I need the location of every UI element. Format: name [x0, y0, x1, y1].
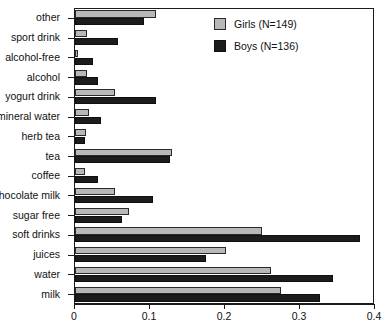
- legend-label: Girls (N=149): [234, 18, 297, 30]
- bar-girls: [75, 30, 87, 37]
- legend-swatch-boys: [214, 40, 226, 52]
- bar-boys: [75, 58, 93, 65]
- x-axis-tick-label: 0: [71, 310, 77, 322]
- bar-boys: [75, 97, 156, 104]
- category-tick: [68, 18, 74, 19]
- bar-boys: [75, 38, 118, 45]
- legend-swatch-girls: [214, 18, 226, 30]
- category-tick: [68, 255, 74, 256]
- bar-boys: [75, 77, 98, 84]
- bar-girls: [75, 208, 129, 215]
- category-tick: [68, 156, 74, 157]
- category-label: coffee: [32, 170, 60, 181]
- x-axis-tick: [299, 304, 300, 309]
- legend-item: Girls (N=149): [214, 16, 297, 32]
- category-label: yogurt drink: [5, 91, 60, 102]
- category-label: mineral water: [0, 111, 60, 122]
- bar-boys: [75, 176, 98, 183]
- x-axis-tick-label: 0.4: [367, 310, 382, 322]
- category-tick: [68, 57, 74, 58]
- category-tick: [68, 38, 74, 39]
- category-tick: [68, 97, 74, 98]
- category-tick: [68, 235, 74, 236]
- category-tick: [68, 274, 74, 275]
- category-label: sugar free: [13, 210, 60, 221]
- category-label: juices: [33, 249, 60, 260]
- bar-girls: [75, 168, 85, 175]
- category-label: water: [34, 269, 60, 280]
- bar-girls: [75, 247, 226, 254]
- bar-chart: othersport drinkalcohol-freealcoholyogur…: [0, 0, 387, 334]
- x-axis-tick-label: 0.3: [292, 310, 307, 322]
- bar-girls: [75, 109, 89, 116]
- category-tick: [68, 117, 74, 118]
- bar-boys: [75, 137, 85, 144]
- legend-item: Boys (N=136): [214, 38, 299, 54]
- bar-boys: [75, 196, 153, 203]
- x-axis-tick: [149, 304, 150, 309]
- bar-boys: [75, 255, 206, 262]
- category-tick: [68, 176, 74, 177]
- category-label: chocolate milk: [0, 190, 60, 201]
- legend-label: Boys (N=136): [234, 40, 299, 52]
- category-label: herb tea: [21, 131, 60, 142]
- bar-girls: [75, 129, 86, 136]
- bar-boys: [75, 18, 144, 25]
- bar-boys: [75, 235, 360, 242]
- category-label: alcohol-free: [5, 52, 60, 63]
- bar-girls: [75, 287, 281, 294]
- category-tick: [68, 77, 74, 78]
- chart-legend: Girls (N=149)Boys (N=136): [214, 16, 344, 60]
- category-tick: [68, 294, 74, 295]
- category-label: other: [36, 12, 60, 23]
- x-axis-tick: [74, 304, 75, 309]
- category-tick: [68, 195, 74, 196]
- bar-boys: [75, 117, 101, 124]
- category-tick: [68, 215, 74, 216]
- bar-girls: [75, 227, 262, 234]
- bar-girls: [75, 10, 156, 17]
- bar-girls: [75, 188, 115, 195]
- category-label: soft drinks: [12, 229, 60, 240]
- category-label: milk: [41, 289, 60, 300]
- bar-boys: [75, 275, 333, 282]
- bar-girls: [75, 149, 172, 156]
- x-axis-tick-label: 0.2: [217, 310, 232, 322]
- bar-girls: [75, 50, 78, 57]
- category-label: tea: [45, 151, 60, 162]
- bar-girls: [75, 89, 115, 96]
- bar-boys: [75, 216, 122, 223]
- x-axis-tick: [224, 304, 225, 309]
- bar-girls: [75, 70, 87, 77]
- category-tick: [68, 136, 74, 137]
- category-label: sport drink: [11, 32, 60, 43]
- x-axis-tick: [374, 304, 375, 309]
- category-label: alcohol: [27, 72, 60, 83]
- x-axis-tick-label: 0.1: [142, 310, 157, 322]
- bar-boys: [75, 294, 320, 301]
- bar-girls: [75, 267, 271, 274]
- category-axis-labels: othersport drinkalcohol-freealcoholyogur…: [0, 8, 66, 304]
- bar-boys: [75, 156, 170, 163]
